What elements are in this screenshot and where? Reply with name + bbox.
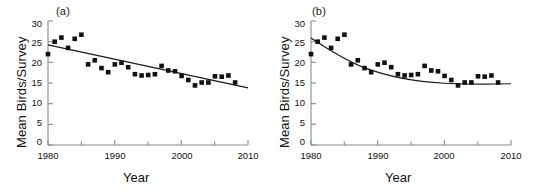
panel-a-plot [0, 0, 267, 193]
panel-b: (b) Mean Birds/Survey Year 30 25 20 15 1… [267, 0, 534, 193]
panel-a-axes [48, 21, 248, 145]
panel-b-plot [267, 0, 534, 193]
panel-a: (a) Mean Birds/Survey Year 30 25 20 15 1… [0, 0, 267, 193]
panel-b-x-ticks [311, 140, 511, 145]
panel-b-axes [311, 21, 511, 145]
panel-b-data-points [309, 32, 501, 87]
panel-a-x-ticks [48, 140, 248, 145]
panel-a-y-ticks [48, 21, 53, 145]
figure-container: (a) Mean Birds/Survey Year 30 25 20 15 1… [0, 0, 535, 193]
panel-a-fit-line [48, 45, 248, 88]
